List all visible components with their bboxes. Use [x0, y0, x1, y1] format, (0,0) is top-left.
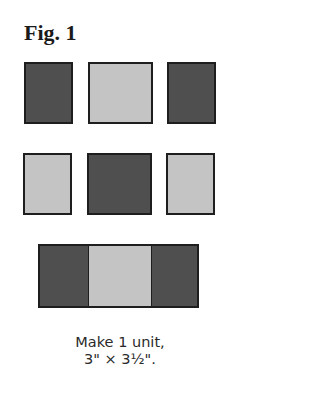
- piece-light: [166, 153, 215, 215]
- unit-segment-light: [89, 246, 152, 306]
- caption-line-2: 3" × 3½".: [20, 351, 220, 368]
- piece-dark: [87, 153, 152, 215]
- caption-line-1: Make 1 unit,: [20, 334, 220, 351]
- piece-light: [88, 62, 153, 124]
- piece-light: [23, 153, 72, 215]
- sewn-unit: [38, 244, 199, 308]
- piece-dark: [24, 62, 73, 124]
- unit-segment-dark: [152, 246, 197, 306]
- piece-dark: [167, 62, 216, 124]
- figure-title: Fig. 1: [24, 20, 77, 46]
- caption: Make 1 unit, 3" × 3½".: [20, 334, 220, 368]
- unit-segment-dark: [40, 246, 89, 306]
